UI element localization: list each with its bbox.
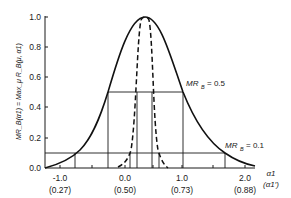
solid-curve [45,17,255,168]
y-axis [45,16,48,168]
y-axis-label: MR_B(α1) = Max_μ R_B(μ, α1) [15,43,23,140]
annotation-text: MR [225,141,238,150]
x-tick-secondary: (0.88) [234,185,256,195]
y-tick-label: 0.6 [29,72,41,82]
annotation-subscript: B [240,146,244,152]
x-axis-label: α1 [266,169,275,178]
annotation-text: MR [186,79,199,88]
y-tick-label: 1.0 [29,12,41,22]
annotation-subscript: B [201,84,205,90]
x-tick-secondary: (0.27) [49,185,71,195]
chart: 1.0 0.8 0.6 0.4 0.2 0.0 MR_B(α1) = Max_μ… [0,0,291,198]
y-tick-label: 0.2 [29,133,41,143]
y-tick-labels: 1.0 0.8 0.6 0.4 0.2 0.0 [29,12,41,173]
x-axis [45,165,255,168]
x-tick-label: 0.0 [119,173,131,183]
x-axis-label-secondary: (α1′) [263,180,279,189]
annotation-value: = 0.1 [246,141,265,150]
x-tick-secondary: (0.73) [171,185,193,195]
x-tick-labels: -1.0 (0.27) 0.0 (0.50) 1.0 (0.73) 2.0 (0… [49,173,256,195]
y-tick-label: 0.4 [29,102,41,112]
annotation-value: = 0.5 [207,79,226,88]
y-tick-label: 0.0 [29,163,41,173]
x-tick-label: 2.0 [239,173,251,183]
x-tick-label: 1.0 [176,173,188,183]
y-tick-label: 0.8 [29,42,41,52]
annotation-mr-05: MR B = 0.5 [186,79,226,90]
annotation-mr-01: MR B = 0.1 [225,141,265,152]
x-tick-label: -1.0 [53,173,68,183]
x-tick-secondary: (0.50) [114,185,136,195]
